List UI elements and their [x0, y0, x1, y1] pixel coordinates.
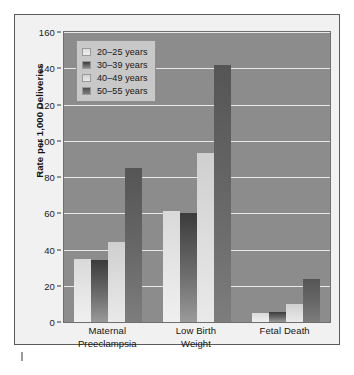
bar [286, 304, 303, 322]
x-category-label: Fetal Death [240, 325, 329, 338]
y-axis-tick-labels: 020406080100120140160 [15, 31, 61, 323]
bar [163, 211, 180, 322]
legend-item-label: 50–55 years [97, 86, 148, 96]
legend-item-label: 20–25 years [97, 47, 148, 57]
figure-bottom-tick-mark [21, 352, 23, 361]
y-tick-mark [57, 68, 61, 69]
bar [303, 279, 320, 323]
legend-item: 30–39 years [82, 58, 148, 71]
y-tick-label: 0 [50, 317, 55, 328]
legend-item-label: 40–49 years [97, 73, 148, 83]
y-tick-mark [57, 213, 61, 214]
y-tick-mark [57, 32, 61, 33]
x-category-label-line: Low Birth [152, 325, 241, 338]
bar [214, 65, 231, 322]
legend-item-label: 30–39 years [97, 60, 148, 70]
bar [269, 312, 286, 322]
bar [180, 213, 197, 322]
bar [252, 313, 269, 322]
bar-group [252, 32, 320, 322]
y-tick-mark [57, 140, 61, 141]
y-tick-mark [57, 104, 61, 105]
y-tick-label: 20 [44, 280, 55, 291]
bar [197, 153, 214, 322]
legend-swatch-icon [82, 61, 91, 69]
y-tick-mark [57, 285, 61, 286]
x-category-label: Low BirthWeight [152, 325, 241, 350]
y-tick-label: 40 [44, 244, 55, 255]
y-tick-label: 140 [39, 63, 55, 74]
chart-figure-panel: Rate per 1,000 Deliveries 02040608010012… [14, 14, 340, 345]
x-axis-category-labels: MaternalPreeclampsiaLow BirthWeightFetal… [63, 325, 331, 361]
y-tick-label: 120 [39, 99, 55, 110]
y-tick-mark [57, 249, 61, 250]
y-tick-mark [57, 177, 61, 178]
y-tick-mark [57, 322, 61, 323]
chart-legend: 20–25 years30–39 years40–49 years50–55 y… [76, 40, 156, 102]
bar [108, 242, 125, 322]
x-category-label-line: Preeclampsia [63, 338, 152, 351]
bar [125, 168, 142, 322]
x-category-label-line: Fetal Death [240, 325, 329, 338]
legend-swatch-icon [82, 74, 91, 82]
plot-area: 20–25 years30–39 years40–49 years50–55 y… [63, 31, 331, 323]
y-tick-label: 100 [39, 135, 55, 146]
bar [74, 259, 91, 322]
bar-group [163, 32, 231, 322]
y-tick-label: 80 [44, 172, 55, 183]
x-category-label-line: Weight [152, 338, 241, 351]
bar [91, 260, 108, 322]
legend-item: 50–55 years [82, 84, 148, 97]
x-category-label-line: Maternal [63, 325, 152, 338]
x-category-label: MaternalPreeclampsia [63, 325, 152, 350]
legend-swatch-icon [82, 87, 91, 95]
y-tick-label: 60 [44, 208, 55, 219]
legend-item: 40–49 years [82, 71, 148, 84]
legend-item: 20–25 years [82, 45, 148, 58]
legend-swatch-icon [82, 48, 91, 56]
y-tick-label: 160 [39, 27, 55, 38]
